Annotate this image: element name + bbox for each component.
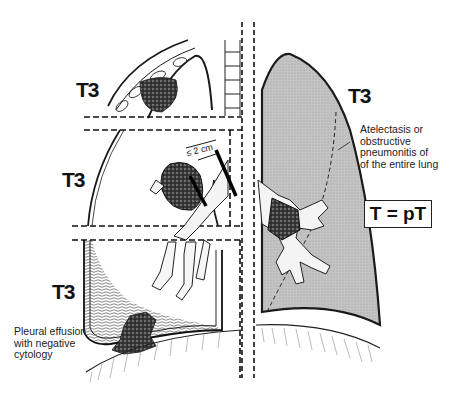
lower-bronchi xyxy=(152,240,210,300)
diagram-canvas: T3 T3 T3 T3 ≤ 2 cm Pleural effusion with… xyxy=(0,0,454,399)
label-t3-chest-wall: T3 xyxy=(76,78,99,102)
pleural-effusion-note: Pleural effusion with negative cytology xyxy=(14,326,86,361)
chest-wall xyxy=(108,40,212,118)
label-t3-right: T3 xyxy=(348,84,371,108)
atelectasis-note: Atelectasis or obstructive pneumonitis o… xyxy=(360,124,438,170)
right-diaphragm xyxy=(256,325,380,362)
label-t3-main-bronchus: T3 xyxy=(62,168,85,192)
trachea xyxy=(225,40,240,116)
formula-box: T = pT xyxy=(364,200,432,228)
label-t3-effusion: T3 xyxy=(52,280,75,304)
mediastinal-dashed-lines xyxy=(242,22,254,378)
